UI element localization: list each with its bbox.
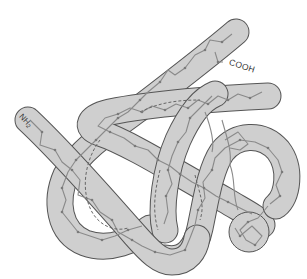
protein-fold-diagram: .outer { fill: none; stroke: #555555; st… bbox=[0, 0, 307, 279]
tube-knob-lower-right bbox=[229, 212, 269, 252]
